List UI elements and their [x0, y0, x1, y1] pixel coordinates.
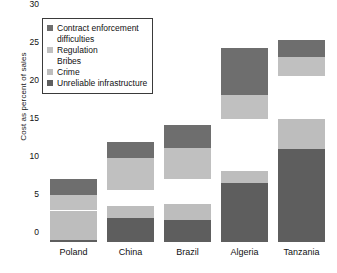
segment-unreliable-infrastructure — [221, 183, 268, 242]
segment-crime — [107, 206, 154, 219]
legend-item-label: difficulties — [57, 34, 94, 45]
segment-contract-enforcement — [278, 40, 325, 57]
legend-item-label: Bribes — [57, 56, 81, 67]
segment-regulation — [278, 57, 325, 76]
segment-bribes — [50, 210, 97, 211]
legend-item[interactable]: difficulties — [47, 34, 147, 45]
legend-item-label: Regulation — [57, 45, 98, 56]
legend-swatch-icon — [47, 25, 53, 31]
segment-crime — [50, 211, 97, 240]
segment-crime — [221, 171, 268, 182]
legend-item-label: Crime — [57, 67, 80, 78]
segment-contract-enforcement — [50, 179, 97, 195]
segment-contract-enforcement — [221, 48, 268, 95]
segment-unreliable-infrastructure — [278, 149, 325, 242]
y-axis-tick-label: 15 — [30, 113, 39, 123]
x-axis-tick-label-tanzania: Tanzania — [267, 247, 337, 257]
segment-bribes — [164, 179, 211, 204]
chart-legend: Contract enforcementdifficultiesRegulati… — [42, 18, 153, 94]
bar-algeria[interactable]: Algeria — [221, 14, 268, 242]
segment-contract-enforcement — [107, 142, 154, 157]
legend-swatch-icon — [47, 47, 53, 53]
segment-regulation — [164, 148, 211, 179]
legend-item-label: Contract enforcement — [57, 23, 139, 34]
segment-regulation — [50, 195, 97, 210]
legend-item[interactable]: Regulation — [47, 45, 147, 56]
y-axis-tick-label: 0 — [34, 227, 39, 237]
y-axis-tick-label: 30 — [30, 0, 39, 9]
bar-tanzania[interactable]: Tanzania — [278, 14, 325, 242]
legend-swatch-icon — [47, 80, 53, 86]
segment-bribes — [107, 190, 154, 206]
legend-item[interactable]: Unreliable infrastructure — [47, 78, 147, 89]
y-axis-tick-label: 10 — [30, 151, 39, 161]
segment-bribes — [221, 119, 268, 171]
chart-container: Cost as percent of sales 051015202530Pol… — [0, 0, 337, 273]
y-axis-tick-label: 5 — [34, 189, 39, 199]
segment-bribes — [278, 76, 325, 119]
y-axis-tick-label: 20 — [30, 75, 39, 85]
segment-unreliable-infrastructure — [164, 220, 211, 242]
segment-regulation — [107, 158, 154, 190]
y-axis-tick-label: 25 — [30, 37, 39, 47]
legend-item[interactable]: Bribes — [47, 56, 147, 67]
legend-swatch-spacer — [47, 58, 53, 64]
segment-unreliable-infrastructure — [50, 240, 97, 242]
segment-regulation — [221, 95, 268, 119]
y-axis-title: Cost as percent of sales — [19, 22, 28, 172]
segment-contract-enforcement — [164, 125, 211, 148]
bar-brazil[interactable]: Brazil — [164, 14, 211, 242]
segment-crime — [164, 204, 211, 220]
legend-item-label: Unreliable infrastructure — [57, 78, 147, 89]
legend-swatch-spacer — [47, 36, 53, 42]
legend-item[interactable]: Contract enforcement — [47, 23, 147, 34]
legend-swatch-icon — [47, 69, 53, 75]
segment-unreliable-infrastructure — [107, 218, 154, 242]
legend-item[interactable]: Crime — [47, 67, 147, 78]
segment-crime — [278, 119, 325, 149]
